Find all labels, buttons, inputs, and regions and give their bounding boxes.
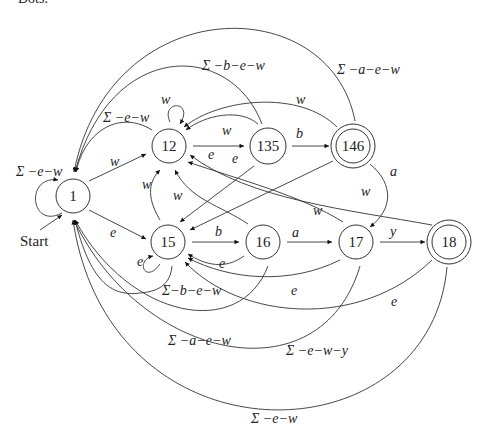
state-12-label: 12 [162,138,177,154]
start-label: Start [20,233,49,249]
label-15-16: b [215,224,222,239]
state-12[interactable]: 12 [152,129,186,163]
states: 1 12 135 146 15 16 17 18 [56,124,471,264]
edge-loop-12 [168,106,184,124]
edge-146-17 [370,164,388,227]
label-16-1: Σ −a−e−w [167,333,231,348]
state-1[interactable]: 1 [56,179,90,213]
label-12-135: e [208,147,214,162]
label-16-12: w [173,188,183,203]
state-16[interactable]: 16 [246,225,280,259]
label-146-12: w [296,92,306,107]
state-135-label: 135 [257,138,280,154]
edge-146-1 [74,28,355,172]
label-17-15: e [291,283,297,298]
edges [36,28,447,410]
label-18-15: e [391,294,397,309]
edge-1-15 [89,210,146,239]
state-16-label: 16 [256,234,272,250]
label-18-1: Σ −e−w [250,411,298,426]
header-cut-text: Dots. [18,0,48,6]
label-135-12: w [222,123,232,138]
state-146[interactable]: 146 [331,124,375,168]
diagram-svg: Dots. [0,0,489,448]
label-1-15: e [110,225,116,240]
state-146-label: 146 [342,138,365,154]
state-15-label: 15 [161,234,176,250]
state-18[interactable]: 18 [427,220,471,264]
state-15[interactable]: 15 [151,225,185,259]
label-loop-15: e [137,254,143,269]
label-135-146: b [296,126,303,141]
label-16-15: e [219,256,225,271]
automaton-diagram: Dots. [0,0,489,448]
edge-146-12 [184,102,337,127]
edge-135-15 [180,166,254,222]
state-18-label: 18 [442,234,457,250]
label-18-12: w [361,184,371,199]
state-17-label: 17 [349,234,365,250]
label-146-1: Σ −a−e−w [336,62,400,77]
state-17[interactable]: 17 [339,225,373,259]
label-loop-12: w [161,92,171,107]
label-16-17: a [292,225,299,240]
state-1-label: 1 [69,188,77,204]
label-17-18: y [388,224,397,239]
edge-17-15 [188,258,340,277]
label-17-1: Σ −e−w−y [285,343,349,358]
label-135-1: Σ −b−e−w [201,58,265,73]
edge-16-15 [188,254,244,265]
label-135-15: e [232,151,238,166]
edge-15-12 [151,170,160,220]
label-15-12: w [142,177,152,192]
edge-146-15 [190,161,333,230]
edge-loop-15 [143,256,160,272]
label-17-12: w [313,203,323,218]
label-loop-1: Σ −e−w [15,164,63,179]
label-146-17: a [390,164,397,179]
start-arrow [40,215,62,230]
state-135[interactable]: 135 [250,128,286,164]
label-15-1: Σ−b−e−w [161,283,222,298]
label-12-1: Σ −e−w [102,110,150,125]
label-1-12: w [110,154,120,169]
